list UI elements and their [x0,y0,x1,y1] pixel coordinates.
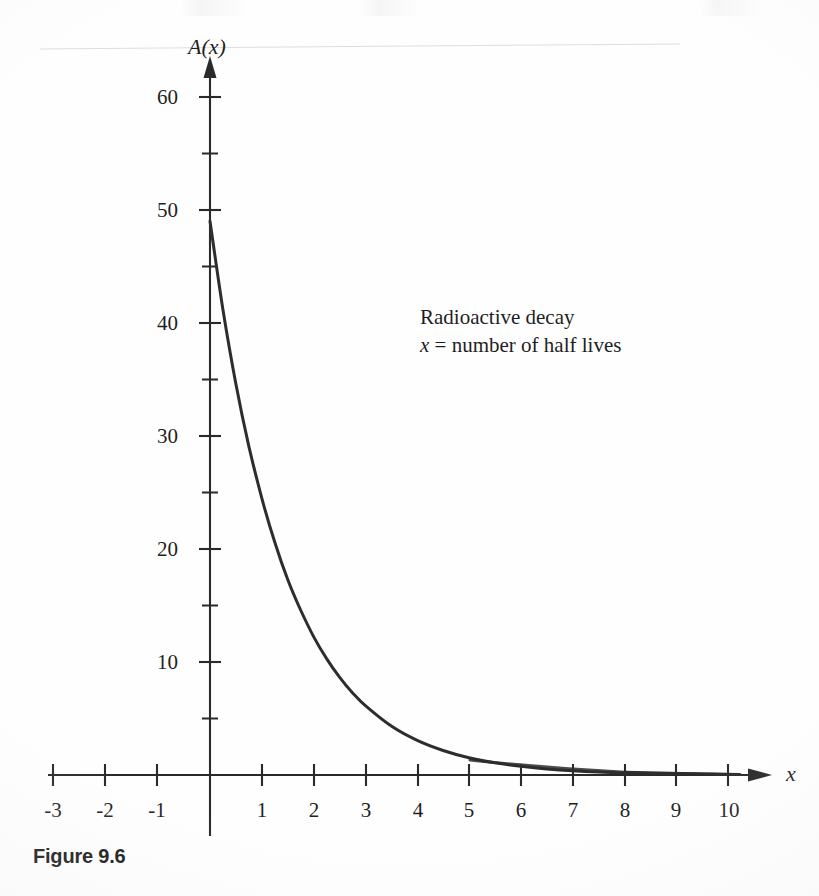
x-tick-label-neg2: -2 [96,800,114,821]
y-tick-label-10: 10 [130,652,178,673]
x-tick-label-8: 8 [620,800,631,821]
x-tick-label-neg1: -1 [148,800,166,821]
y-tick-label-50: 50 [130,200,178,221]
chart-annotation: Radioactive decay x = number of half liv… [420,303,621,360]
annotation-variable: x [420,333,429,357]
decay-curve-tail [625,772,740,774]
x-tick-label-9: 9 [671,800,682,821]
annotation-line-2-text: = number of half lives [429,333,621,357]
y-axis-label: A(x) [188,36,226,58]
x-tick-label-1: 1 [257,800,268,821]
figure-page: A(x) x 10 20 30 40 50 60 -3 -2 -1 1 2 3 … [0,0,819,896]
x-axis-arrow-icon [748,769,772,782]
figure-caption: Figure 9.6 [33,845,125,868]
y-axis-arrow-icon [204,56,217,78]
x-tick-label-6: 6 [516,800,527,821]
x-tick-label-neg3: -3 [44,800,62,821]
x-tick-label-4: 4 [413,800,424,821]
x-tick-label-7: 7 [568,800,579,821]
y-tick-label-30: 30 [130,426,178,447]
decay-chart [0,0,819,896]
x-tick-label-10: 10 [719,800,740,821]
x-axis-label: x [786,763,796,785]
x-tick-label-2: 2 [309,800,320,821]
x-tick-label-3: 3 [361,800,372,821]
x-tick-label-5: 5 [464,800,475,821]
annotation-line-1: Radioactive decay [420,303,621,331]
y-tick-label-40: 40 [130,313,178,334]
y-tick-label-60: 60 [130,87,178,108]
y-tick-label-20: 20 [130,539,178,560]
annotation-line-2: x = number of half lives [420,331,621,359]
